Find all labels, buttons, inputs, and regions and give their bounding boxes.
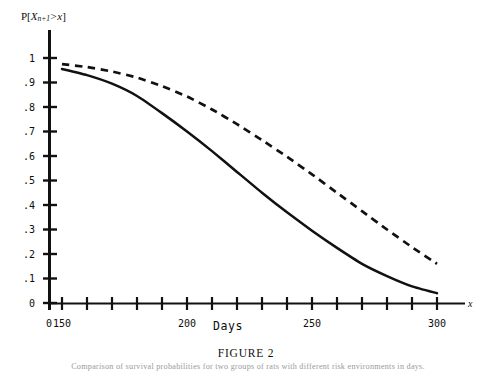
y-tick-label: .5 [9, 175, 35, 186]
solid-survival-curve [62, 69, 437, 293]
y-tick-label: 0 [9, 298, 35, 309]
figure-caption: Comparison of survival probabilities for… [28, 363, 468, 372]
x-tick-label: 300 [417, 318, 457, 329]
y-axis-label-variable: X [31, 10, 38, 22]
y-tick-label: .6 [9, 151, 35, 162]
y-axis-label-prefix: P[ [21, 10, 31, 22]
dashed-survival-curve [62, 64, 437, 264]
y-axis-label: P[Xn+1>x] [21, 11, 66, 23]
chart-canvas [0, 0, 492, 372]
y-tick-label: .7 [9, 126, 35, 137]
y-axis-label-suffix: ] [62, 10, 66, 22]
y-tick-label: .8 [9, 102, 35, 113]
y-tick-label: .4 [9, 200, 35, 211]
x-tick-label: 150 [42, 318, 82, 329]
y-tick-label: 1 [9, 53, 35, 64]
x-axis-symbol: x [468, 299, 472, 309]
y-tick-label: .9 [9, 77, 35, 88]
x-axis-title: Days [213, 321, 243, 333]
x-tick-label: 250 [292, 318, 332, 329]
figure-container: P[Xn+1>x] 0.1.2.3.4.5.6.7.8.91 015020025… [0, 0, 492, 372]
figure-title: FIGURE 2 [0, 348, 492, 360]
x-tick-label: 200 [167, 318, 207, 329]
y-tick-label: .1 [9, 273, 35, 284]
y-axis-label-subscript: n+1 [38, 14, 51, 23]
y-tick-label: .3 [9, 224, 35, 235]
y-tick-label: .2 [9, 249, 35, 260]
